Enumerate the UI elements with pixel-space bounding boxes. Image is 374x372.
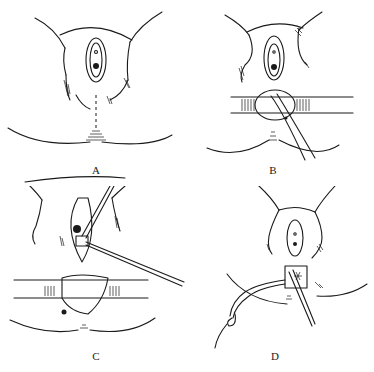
panel-a: A	[0, 0, 187, 186]
panel-c-label: C	[86, 350, 106, 362]
panel-d: D	[187, 186, 374, 372]
panel-d-illustration	[187, 186, 374, 372]
panel-a-label: A	[86, 164, 106, 176]
panel-c: C	[0, 186, 187, 372]
panel-b: B	[187, 0, 374, 186]
panel-b-illustration	[187, 0, 374, 186]
panel-a-illustration	[0, 0, 187, 186]
panel-c-illustration	[0, 186, 187, 372]
panel-b-label: B	[263, 164, 283, 176]
panel-d-label: D	[265, 350, 285, 362]
